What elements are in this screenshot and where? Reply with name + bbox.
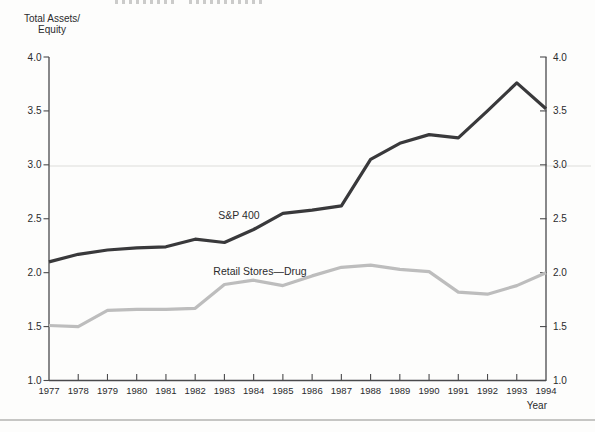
cropped-text-mark <box>189 0 265 4</box>
x-tick-label: 1978 <box>68 385 89 396</box>
x-axis-ticks <box>78 374 517 381</box>
x-tick-label: 1984 <box>243 385 264 396</box>
left-y-axis-ticks: 4.03.53.02.52.01.51.0 <box>28 52 49 387</box>
x-tick-label: 1983 <box>214 385 235 396</box>
x-axis-tick-labels: 1977197819791980198119821983198419851986… <box>38 385 556 396</box>
y-tick-label-right: 4.0 <box>553 52 567 63</box>
y-axis-title-line2: Equity <box>14 24 90 35</box>
y-tick-label-right: 1.5 <box>553 321 567 332</box>
y-tick-label-left: 1.5 <box>28 321 42 332</box>
line-chart: 4.03.53.02.52.01.51.0 4.03.53.02.52.01.5… <box>0 0 595 432</box>
x-axis-title: Year <box>527 400 548 411</box>
cropped-page-header-fragment <box>115 0 265 5</box>
x-tick-label: 1980 <box>126 385 147 396</box>
x-tick-label: 1994 <box>535 385 556 396</box>
y-axis-title: Total Assets/ Equity <box>14 13 90 35</box>
scanned-chart-page: Total Assets/ Equity 4.03.53.02.52.01.51… <box>0 0 595 432</box>
y-tick-label-left: 4.0 <box>28 52 42 63</box>
x-tick-label: 1991 <box>448 385 469 396</box>
x-tick-label: 1993 <box>506 385 527 396</box>
x-tick-label: 1979 <box>97 385 118 396</box>
x-tick-label: 1977 <box>38 385 59 396</box>
x-tick-label: 1985 <box>272 385 293 396</box>
y-tick-label-right: 3.5 <box>553 105 567 116</box>
right-y-axis-ticks: 4.03.53.02.52.01.51.0 <box>540 52 567 387</box>
x-tick-label: 1988 <box>360 385 381 396</box>
y-tick-label-left: 3.0 <box>28 159 42 170</box>
x-tick-label: 1990 <box>418 385 439 396</box>
x-tick-label: 1982 <box>185 385 206 396</box>
x-tick-label: 1986 <box>302 385 323 396</box>
series-label-0: S&P 400 <box>218 209 259 221</box>
y-tick-label-right: 2.5 <box>553 213 567 224</box>
y-tick-label-left: 3.5 <box>28 105 42 116</box>
y-tick-label-left: 2.0 <box>28 267 42 278</box>
x-tick-label: 1987 <box>331 385 352 396</box>
y-tick-label-right: 3.0 <box>553 159 567 170</box>
x-tick-label: 1981 <box>155 385 176 396</box>
y-axis-title-line1: Total Assets/ <box>14 13 90 24</box>
page-divider-line <box>0 419 595 421</box>
x-tick-label: 1992 <box>477 385 498 396</box>
cropped-text-mark <box>115 0 175 4</box>
data-series <box>49 83 546 327</box>
y-tick-label-left: 2.5 <box>28 213 42 224</box>
series-line-0 <box>49 83 546 262</box>
x-tick-label: 1989 <box>389 385 410 396</box>
series-label-1: Retail Stores—Drug <box>213 265 307 277</box>
y-tick-label-right: 2.0 <box>553 267 567 278</box>
series-inline-labels: S&P 400Retail Stores—Drug <box>213 209 307 277</box>
